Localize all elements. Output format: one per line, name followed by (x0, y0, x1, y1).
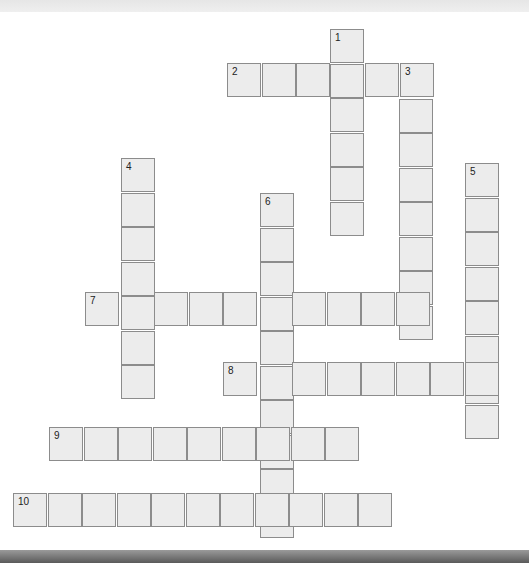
crossword-cell[interactable] (121, 331, 155, 365)
clue-number-2: 2 (232, 66, 238, 77)
crossword-cell[interactable]: 1 (330, 29, 364, 63)
crossword-cell[interactable] (465, 362, 499, 396)
clue-number-7: 7 (90, 295, 96, 306)
crossword-cell[interactable] (399, 133, 433, 167)
crossword-cell[interactable] (121, 365, 155, 399)
crossword-cell[interactable] (117, 493, 151, 527)
crossword-cell[interactable]: 9 (49, 427, 83, 461)
crossword-cell[interactable] (262, 63, 296, 97)
crossword-cell[interactable]: 8 (223, 362, 257, 396)
crossword-cell[interactable] (465, 232, 499, 266)
crossword-cell[interactable] (399, 168, 433, 202)
crossword-cell[interactable] (153, 427, 187, 461)
crossword-cell[interactable] (358, 493, 392, 527)
crossword-cell[interactable] (325, 427, 359, 461)
crossword-cell[interactable] (82, 493, 116, 527)
crossword-cell[interactable] (222, 427, 256, 461)
crossword-cell[interactable] (465, 405, 499, 439)
crossword-cell[interactable] (399, 237, 433, 271)
crossword-cell[interactable] (118, 427, 152, 461)
crossword-cell[interactable]: 5 (465, 163, 499, 197)
clue-number-5: 5 (470, 166, 476, 177)
crossword-cell[interactable] (121, 262, 155, 296)
clue-number-4: 4 (126, 161, 132, 172)
crossword-cell[interactable] (187, 427, 221, 461)
crossword-cell[interactable] (296, 63, 330, 97)
crossword-cell[interactable] (260, 297, 294, 331)
crossword-cell[interactable] (260, 331, 294, 365)
crossword-cell[interactable] (330, 64, 364, 98)
crossword-cell[interactable]: 2 (227, 63, 261, 97)
crossword-grid: 12345678910 (0, 0, 529, 563)
crossword-cell[interactable]: 3 (400, 63, 434, 97)
crossword-cell[interactable] (396, 362, 430, 396)
crossword-cell[interactable] (260, 262, 294, 296)
clue-number-8: 8 (228, 365, 234, 376)
crossword-cell[interactable] (121, 193, 155, 227)
crossword-cell[interactable] (256, 427, 290, 461)
crossword-cell[interactable] (365, 63, 399, 97)
crossword-cell[interactable] (465, 301, 499, 335)
crossword-cell[interactable] (327, 362, 361, 396)
crossword-cell[interactable]: 6 (260, 193, 294, 227)
crossword-cell[interactable] (220, 493, 254, 527)
crossword-cell[interactable] (121, 227, 155, 261)
crossword-cell[interactable] (330, 133, 364, 167)
clue-number-9: 9 (54, 430, 60, 441)
crossword-cell[interactable] (465, 267, 499, 301)
crossword-cell[interactable] (186, 493, 220, 527)
crossword-cell[interactable]: 4 (121, 158, 155, 192)
crossword-cell[interactable] (430, 362, 464, 396)
crossword-cell[interactable] (292, 362, 326, 396)
crossword-cell[interactable] (361, 292, 395, 326)
crossword-cell[interactable] (121, 296, 155, 330)
crossword-cell[interactable] (84, 427, 118, 461)
crossword-cell[interactable] (324, 493, 358, 527)
clue-number-1: 1 (335, 32, 341, 43)
crossword-cell[interactable] (330, 98, 364, 132)
clue-number-3: 3 (405, 66, 411, 77)
crossword-cell[interactable] (289, 493, 323, 527)
crossword-cell[interactable] (292, 292, 326, 326)
crossword-cell[interactable] (260, 228, 294, 262)
crossword-cell[interactable] (48, 493, 82, 527)
crossword-cell[interactable] (255, 493, 289, 527)
clue-number-10: 10 (18, 496, 29, 507)
crossword-cell[interactable] (330, 167, 364, 201)
crossword-cell[interactable] (361, 362, 395, 396)
crossword-cell[interactable] (399, 99, 433, 133)
crossword-cell[interactable] (223, 292, 257, 326)
crossword-cell[interactable] (330, 202, 364, 236)
crossword-cell[interactable] (465, 198, 499, 232)
crossword-cell[interactable]: 7 (85, 292, 119, 326)
crossword-cell[interactable] (327, 292, 361, 326)
crossword-cell[interactable] (189, 292, 223, 326)
clue-number-6: 6 (265, 196, 271, 207)
crossword-cell[interactable]: 10 (13, 493, 47, 527)
crossword-cell[interactable] (154, 292, 188, 326)
bottom-shadow-band (0, 550, 529, 563)
crossword-cell[interactable] (291, 427, 325, 461)
crossword-cell[interactable] (151, 493, 185, 527)
crossword-cell[interactable] (396, 292, 430, 326)
crossword-cell[interactable] (260, 366, 294, 400)
crossword-cell[interactable] (399, 202, 433, 236)
